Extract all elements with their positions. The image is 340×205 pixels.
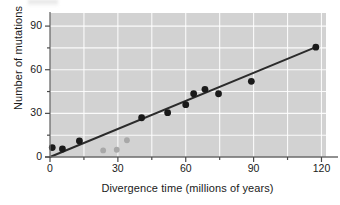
- axis-tick-layer: 03060900306090120: [0, 0, 340, 205]
- x-axis-tick-label: 90: [240, 162, 268, 174]
- x-axis-tick-label: 120: [307, 162, 335, 174]
- y-axis-tick-label: 60: [22, 63, 42, 75]
- x-axis-tick-label: 0: [36, 162, 64, 174]
- x-axis-tick-label: 30: [104, 162, 132, 174]
- y-axis-tick-label: 90: [22, 19, 42, 31]
- x-axis-label: Divergence time (millions of years): [50, 182, 325, 194]
- x-axis-tick-label: 60: [172, 162, 200, 174]
- y-axis-tick-label: 0: [22, 150, 42, 162]
- y-axis-tick-label: 30: [22, 106, 42, 118]
- y-axis-label: Number of mutations: [12, 0, 24, 128]
- scan-artifact: [28, 0, 58, 7]
